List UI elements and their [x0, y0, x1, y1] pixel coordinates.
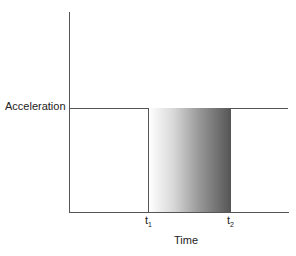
y-axis-label: Acceleration: [5, 100, 66, 112]
x-axis-label: Time: [174, 234, 198, 246]
tick-t2: t2: [227, 214, 234, 228]
y-axis: [69, 12, 70, 212]
tick-t1: t1: [145, 214, 152, 228]
tick-t2-subscript: 2: [230, 221, 234, 228]
x-axis: [69, 212, 289, 213]
tick-t1-subscript: 1: [148, 221, 152, 228]
acceleration-pulse-area: [148, 108, 231, 212]
